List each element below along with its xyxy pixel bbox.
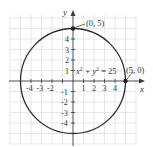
circle-graph-figure: y x -4 -3 -2 1 2 3 4 4 3 2 1 -1 -2 -3 -4… — [0, 0, 153, 147]
point-5-0 — [123, 79, 127, 83]
y-tick-label: -2 — [61, 98, 68, 107]
y-tick-label: 2 — [65, 56, 69, 65]
x-tick-label: 4 — [113, 84, 117, 93]
y-tick-label: 1 — [65, 67, 69, 76]
coordinate-plane: y x -4 -3 -2 1 2 3 4 4 3 2 1 -1 -2 -3 -4… — [0, 0, 153, 147]
point-label-5-0: (5, 0) — [126, 65, 145, 75]
x-tick-label: 2 — [92, 84, 96, 93]
point-0-5 — [71, 26, 75, 30]
x-axis-arrow-icon — [139, 79, 145, 84]
point-label-0-5: (0, 5) — [86, 18, 105, 28]
y-axis-arrow-icon — [71, 10, 76, 16]
y-tick-label: 3 — [65, 46, 69, 55]
x-axis-label: x — [139, 84, 144, 94]
axes — [9, 13, 143, 146]
y-tick-label: -3 — [61, 109, 68, 118]
x-tick-label: -2 — [47, 84, 54, 93]
y-tick-label: -1 — [61, 88, 68, 97]
x-tick-label: -3 — [37, 84, 44, 93]
equation-label: x2 + y2 = 25 — [75, 66, 117, 77]
y-tick-label: 4 — [65, 35, 69, 44]
x-tick-label: 3 — [103, 84, 107, 93]
y-axis-label: y — [62, 7, 67, 17]
y-tick-label: -4 — [61, 119, 68, 128]
x-tick-label: -4 — [26, 84, 33, 93]
x-tick-label: 1 — [82, 84, 86, 93]
